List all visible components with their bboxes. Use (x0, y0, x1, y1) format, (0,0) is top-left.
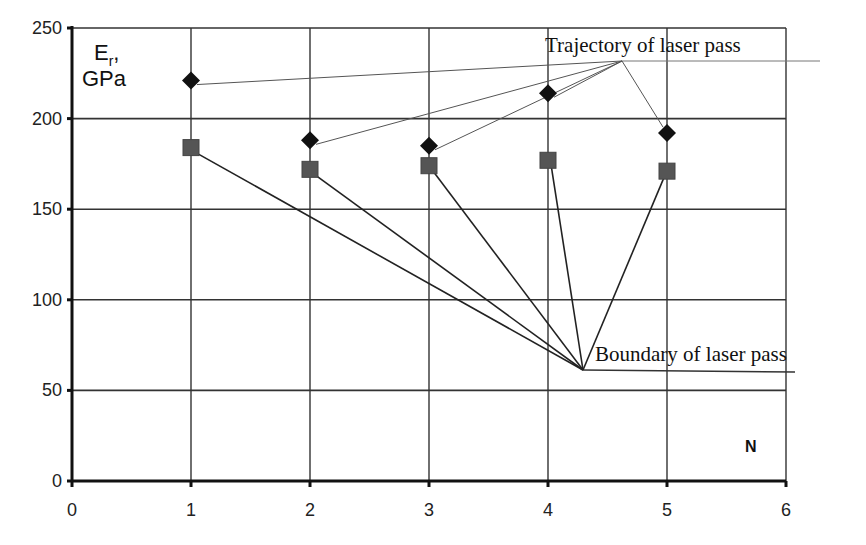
trajectory-annotation: Trajectory of laser pass (545, 33, 741, 57)
y-axis-tick-labels: 050100150200250 (32, 18, 62, 491)
x-tick-label: 3 (424, 500, 434, 520)
square-marker (302, 161, 318, 177)
x-tick-label: 6 (781, 500, 791, 520)
square-marker (183, 140, 199, 156)
y-tick-label: 0 (52, 471, 62, 491)
square-marker (540, 152, 556, 168)
y-tick-label: 200 (32, 109, 62, 129)
x-tick-label: 2 (305, 500, 315, 520)
y-tick-label: 250 (32, 18, 62, 38)
x-tick-label: 0 (67, 500, 77, 520)
x-tick-label: 5 (662, 500, 672, 520)
y-tick-label: 150 (32, 199, 62, 219)
boundary-leader-line (432, 170, 583, 370)
boundary-leader-line (194, 152, 583, 370)
grid-lines (72, 28, 786, 481)
x-tick-label: 4 (543, 500, 553, 520)
trajectory-leader-line (554, 61, 622, 97)
diamond-marker (301, 131, 319, 149)
diamond-marker (420, 137, 438, 155)
diamond-marker (182, 72, 200, 90)
boundary-leader-line (551, 164, 583, 370)
trajectory-leader-line (622, 61, 663, 127)
boundary-annotation: Boundary of laser pass (595, 342, 787, 366)
boundary-leader-line (313, 173, 583, 370)
boundary-leader-line (583, 175, 665, 370)
chart: 050100150200250 0123456 Er, GPa N Trajec… (0, 0, 866, 545)
y-tick-label: 100 (32, 290, 62, 310)
trajectory-leader-line (197, 61, 622, 85)
square-marker (421, 158, 437, 174)
x-axis-tick-labels: 0123456 (67, 500, 791, 520)
trajectory-leader-line (316, 61, 622, 144)
y-axis-unit: GPa (82, 66, 127, 91)
trajectory-leader-line (435, 61, 622, 150)
y-tick-label: 50 (42, 380, 62, 400)
square-marker (659, 163, 675, 179)
annotation-leader-lines (194, 61, 820, 372)
x-tick-label: 1 (186, 500, 196, 520)
x-axis-label: N (745, 438, 757, 455)
diamond-marker (658, 124, 676, 142)
y-axis-label: Er, (94, 40, 119, 69)
